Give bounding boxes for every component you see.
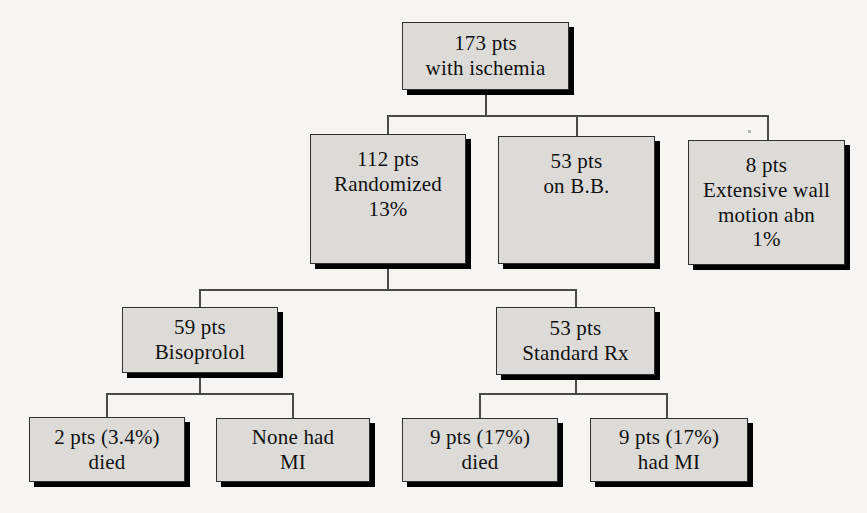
std-died-line-2: died xyxy=(462,450,499,475)
extensive-wall-line-2: Extensive wall xyxy=(703,178,830,203)
standard-rx-line-2: Standard Rx xyxy=(522,341,629,366)
std-died-line-1: 9 pts (17%) xyxy=(430,425,530,450)
total-patients-line-1: 173 pts xyxy=(454,31,517,56)
connector-level2-bus xyxy=(199,289,577,291)
connector-to-std-died xyxy=(479,393,481,418)
extensive-wall-line-3: motion abn xyxy=(718,203,815,228)
biso-died-line-1: 2 pts (3.4%) xyxy=(54,425,160,450)
bisoprolol-died-node[interactable]: 2 pts (3.4%) died xyxy=(29,417,185,482)
connector-standard-bus xyxy=(479,393,668,395)
connector-to-biso-died xyxy=(106,393,108,418)
biso-died-line-2: died xyxy=(89,450,126,475)
randomized-node[interactable]: 112 pts Randomized 13% xyxy=(310,134,466,264)
total-patients-line-2: with ischemia xyxy=(426,56,546,81)
scan-artifact-speck xyxy=(748,130,751,133)
total-patients-node[interactable]: 173 pts with ischemia xyxy=(402,22,569,90)
connector-to-std-mi xyxy=(666,393,668,418)
connector-to-randomized xyxy=(387,115,389,135)
bisoprolol-mi-node[interactable]: None had MI xyxy=(216,418,370,482)
connector-level1-bus xyxy=(388,115,769,117)
randomized-line-3: 13% xyxy=(368,197,407,222)
bisoprolol-line-2: Bisoprolol xyxy=(155,340,246,365)
connector-bisoprolol-stem xyxy=(199,373,201,395)
flowchart-canvas: 173 pts with ischemia 112 pts Randomized… xyxy=(0,0,867,513)
on-bb-line-2: on B.B. xyxy=(543,174,609,199)
connector-to-on-bb xyxy=(576,115,578,137)
on-beta-blocker-node[interactable]: 53 pts on B.B. xyxy=(498,136,655,264)
bisoprolol-arm-node[interactable]: 59 pts Bisoprolol xyxy=(122,307,278,373)
bisoprolol-line-1: 59 pts xyxy=(174,315,226,340)
connector-to-bisoprolol xyxy=(199,289,201,308)
randomized-line-2: Randomized xyxy=(334,172,442,197)
std-mi-line-1: 9 pts (17%) xyxy=(619,425,719,450)
extensive-wall-line-4: 1% xyxy=(752,227,780,252)
extensive-wall-motion-node[interactable]: 8 pts Extensive wall motion abn 1% xyxy=(688,140,845,265)
connector-to-extensive-wall xyxy=(767,115,769,141)
connector-to-standard-rx xyxy=(575,289,577,308)
connector-bisoprolol-bus xyxy=(106,393,294,395)
standard-mi-node[interactable]: 9 pts (17%) had MI xyxy=(590,418,748,482)
biso-mi-line-1: None had xyxy=(252,425,335,450)
on-bb-line-1: 53 pts xyxy=(551,149,603,174)
biso-mi-line-2: MI xyxy=(280,450,306,475)
connector-to-biso-mi xyxy=(292,393,294,418)
extensive-wall-line-1: 8 pts xyxy=(746,153,787,178)
standard-rx-arm-node[interactable]: 53 pts Standard Rx xyxy=(496,307,655,375)
standard-rx-line-1: 53 pts xyxy=(550,316,602,341)
connector-root-stem xyxy=(485,90,487,117)
std-mi-line-2: had MI xyxy=(638,450,700,475)
connector-randomized-stem xyxy=(387,264,389,291)
randomized-line-1: 112 pts xyxy=(357,147,419,172)
standard-died-node[interactable]: 9 pts (17%) died xyxy=(402,418,558,482)
connector-standard-rx-stem xyxy=(575,375,577,395)
